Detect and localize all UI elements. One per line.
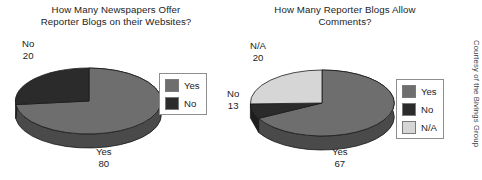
pie-right-label-yes: Yes 67 [332,146,348,169]
chart-title-right-line1: How Many Reporter Blogs Allow [274,4,415,15]
chart-title-right-line2: Comments? [232,16,458,28]
pie-right-label-na: N/A 20 [250,40,266,63]
legend-right-item-na: N/A [402,120,437,134]
pie-left-label-yes: Yes 80 [96,146,112,169]
legend-right-item-no: No [402,102,437,116]
legend-swatch-no-icon [402,103,416,116]
pie-left-label-no: No 20 [22,38,34,61]
legend-left-label-yes: Yes [184,80,200,91]
chart-panel-reporter-blogs-allow-comments: How Many Reporter Blogs Allow Comments? … [232,0,458,180]
pie-left-no-top [15,68,89,105]
legend-swatch-yes-icon [165,79,179,92]
pie-right-label-no: No 13 [227,88,239,111]
pie-left [14,56,164,134]
pie-right-na-top [250,70,322,104]
legend-swatch-na-icon [402,121,416,134]
legend-right: Yes No N/A [396,79,444,139]
pie-left-label-yes-name: Yes [96,146,112,157]
chart-panel-newspapers-offer-reporter-blogs: How Many Newspapers Offer Reporter Blogs… [0,0,232,180]
pie-right-label-yes-name: Yes [332,146,348,157]
pie-right [248,58,396,136]
pie-right-label-na-value: 20 [250,52,266,64]
legend-left: Yes No [159,73,207,115]
legend-left-item-no: No [165,96,200,110]
pie-right-svg [248,58,396,136]
chart-title-left-line1: How Many Newspapers Offer [52,4,181,15]
pie-right-label-yes-value: 67 [332,158,348,170]
legend-right-item-yes: Yes [402,84,437,98]
legend-right-label-yes: Yes [421,86,437,97]
pie-left-label-no-name: No [22,38,34,49]
legend-swatch-yes-icon [402,85,416,98]
legend-swatch-no-icon [165,97,179,110]
pie-right-label-no-name: No [227,88,239,99]
chart-title-right: How Many Reporter Blogs Allow Comments? [232,4,458,28]
legend-right-label-na: N/A [421,122,437,133]
legend-left-item-yes: Yes [165,78,200,92]
chart-title-left: How Many Newspapers Offer Reporter Blogs… [0,4,232,28]
pie-right-label-na-name: N/A [250,40,266,51]
pie-left-label-yes-value: 80 [96,158,112,170]
credit-line: Courtesy of the Bivings Group [467,40,481,172]
pie-right-label-no-value: 13 [227,100,239,112]
pie-left-label-no-value: 20 [22,50,34,62]
pie-chart-figure: How Many Newspapers Offer Reporter Blogs… [0,0,482,180]
chart-title-left-line2: Reporter Blogs on their Websites? [0,16,232,28]
pie-left-svg [14,56,164,134]
legend-right-label-no: No [421,104,433,115]
legend-left-label-no: No [184,98,196,109]
